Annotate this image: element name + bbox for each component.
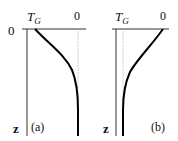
panel-a-tg-label: TG — [27, 9, 41, 26]
panel-a-caption: (a) — [31, 120, 44, 134]
panel-a-origin-label: 0 — [8, 23, 15, 38]
panel-a: 0 TG 0 z (a) — [8, 9, 86, 136]
figure-canvas: 0 TG 0 z (a) TG 0 z (b) — [0, 0, 178, 141]
panel-b: TG 0 z (b) — [103, 9, 169, 136]
panel-a-zero-label: 0 — [74, 9, 80, 23]
panel-a-z-label: z — [13, 121, 19, 136]
panel-b-zero-label: 0 — [160, 9, 166, 23]
panel-b-caption: (b) — [151, 120, 165, 134]
panel-b-tg-label: TG — [115, 9, 129, 26]
panel-b-z-label: z — [103, 121, 109, 136]
